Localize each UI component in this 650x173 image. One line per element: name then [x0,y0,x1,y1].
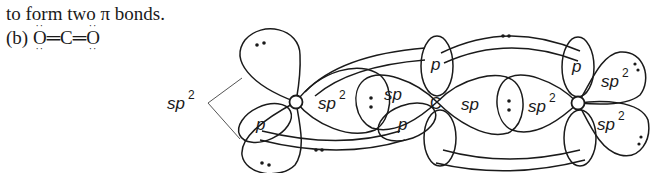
callout-sp2-sup: 2 [188,88,195,102]
carbon-atom-label: C [430,95,442,112]
label-sp2-right-lower: sp [597,115,615,134]
oxygen-atom-right-node [572,97,585,110]
label-p-right: p [571,57,581,76]
oxygen-atom-left-node [290,96,303,109]
label-p: p [255,115,265,134]
pi-bond-left-lower [260,131,405,152]
label-sp2-sigma-right: sp [528,97,546,116]
label-sup: 2 [622,66,629,80]
label-sup: 2 [549,91,556,105]
label-p-c-upper: p [430,55,440,74]
sp2-callout: sp 2 [167,78,242,139]
left-oxygen-orbitals: p sp 2 [232,29,389,173]
label-sp-c-right: sp [461,95,479,114]
callout-sp2-label: sp [167,94,185,113]
label-sp2-sigma-left: sp [318,94,336,113]
pi-bond-lower-right [436,150,585,171]
pi-bond-upper [441,34,580,63]
pi-bond-left-upper [305,48,425,96]
label-sp-c-left: sp [384,85,402,104]
orbital-diagram: p sp 2 sp 2 sp p p sp C sp [0,0,650,173]
label-sup: 2 [618,109,625,123]
label-sup: 2 [339,88,346,102]
label-p-c-lower: p [397,115,407,134]
label-sp2-right-upper: sp [601,72,619,91]
right-oxygen-orbitals: sp 2 p sp 2 sp 2 [497,37,649,166]
